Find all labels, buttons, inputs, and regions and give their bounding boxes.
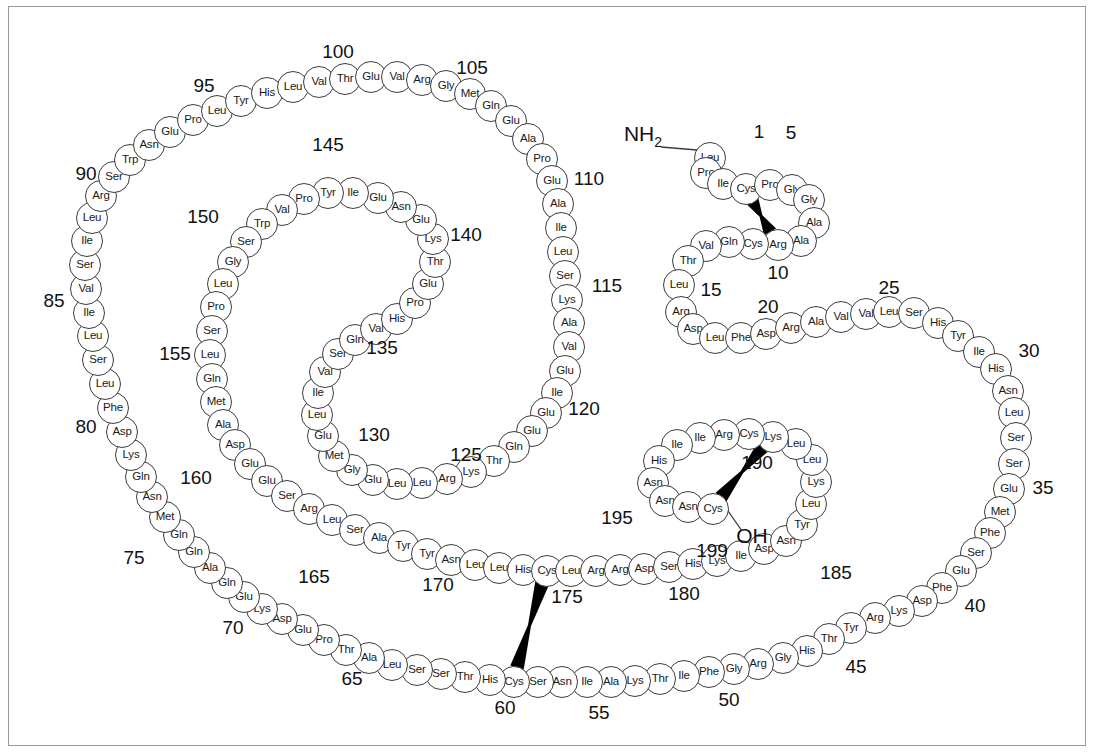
position-label-1: 1	[754, 121, 765, 143]
position-label-190: 190	[741, 452, 773, 474]
position-label-95: 95	[193, 75, 214, 97]
position-label-100: 100	[322, 41, 354, 63]
position-label-20: 20	[757, 296, 778, 318]
position-label-60: 60	[494, 697, 515, 719]
protein-diagram-page: LeuProIleCysProGlyGlyAlaAlaArgCysGlnValT…	[0, 0, 1094, 754]
n-terminus-label: NH2	[624, 122, 662, 149]
position-label-45: 45	[845, 656, 866, 678]
position-label-90: 90	[75, 163, 96, 185]
position-label-10: 10	[767, 262, 788, 284]
position-label-125: 125	[450, 444, 482, 466]
position-label-160: 160	[180, 467, 212, 489]
position-label-185: 185	[820, 562, 852, 584]
n-terminus-subscript: 2	[654, 134, 662, 150]
position-label-150: 150	[187, 206, 219, 228]
position-label-15: 15	[700, 279, 721, 301]
position-label-25: 25	[878, 277, 899, 299]
position-label-35: 35	[1032, 477, 1053, 499]
backbone-and-bonds-layer	[0, 0, 1094, 754]
c-terminus-text: OH	[736, 524, 768, 547]
position-label-180: 180	[668, 583, 700, 605]
n-terminus-connector	[661, 147, 697, 150]
position-label-55: 55	[588, 702, 609, 724]
residue-199-cys: Cys	[697, 493, 729, 525]
position-label-115: 115	[592, 275, 622, 297]
position-label-70: 70	[222, 617, 243, 639]
c-terminus-label: OH	[736, 524, 768, 548]
position-label-130: 130	[358, 424, 390, 446]
position-label-135: 135	[366, 337, 398, 359]
position-label-50: 50	[718, 689, 739, 711]
position-label-140: 140	[450, 224, 482, 246]
position-label-80: 80	[75, 416, 96, 438]
position-label-110: 110	[574, 168, 604, 190]
position-label-195: 195	[601, 507, 633, 529]
position-label-170: 170	[422, 574, 454, 596]
position-label-165: 165	[298, 566, 330, 588]
position-label-65: 65	[341, 668, 362, 690]
position-label-105: 105	[456, 57, 488, 79]
position-label-120: 120	[568, 398, 600, 420]
position-label-75: 75	[123, 547, 144, 569]
position-label-199: 199	[696, 540, 728, 562]
disulfide-bond-58-174	[510, 581, 548, 669]
n-terminus-text: NH	[624, 122, 654, 145]
position-label-85: 85	[43, 290, 64, 312]
position-label-5: 5	[786, 122, 797, 144]
position-label-175: 175	[551, 586, 583, 608]
position-label-40: 40	[964, 595, 985, 617]
position-label-30: 30	[1018, 340, 1039, 362]
position-label-145: 145	[312, 134, 344, 156]
position-label-155: 155	[159, 343, 191, 365]
